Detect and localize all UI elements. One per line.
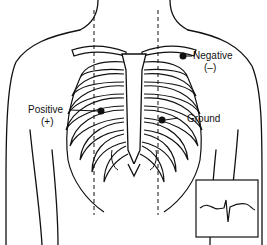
negative-sign: (–): [204, 62, 216, 73]
positive-electrode: [98, 108, 105, 115]
positive-label: Positive: [28, 104, 63, 115]
positive-sign: (+): [41, 116, 54, 127]
ground-label: Ground: [187, 113, 220, 124]
ground-electrode: [159, 117, 166, 124]
negative-label: Negative: [193, 50, 232, 61]
negative-electrode: [180, 53, 187, 60]
